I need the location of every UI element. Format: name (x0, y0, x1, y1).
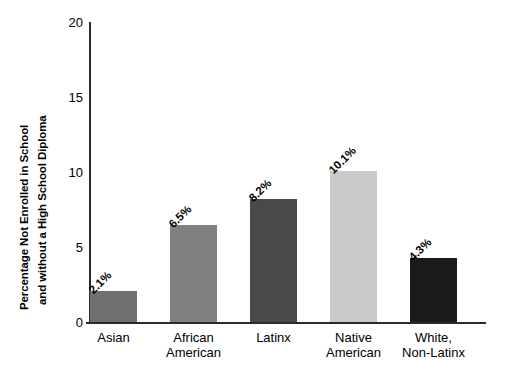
x-category-label-line: Non-Latinx (384, 345, 484, 360)
y-tick-label: 15 (49, 91, 89, 104)
bar (170, 225, 217, 323)
plot-area: 05101520 2.1%6.5%8.2%10.1%4.3% AsianAfri… (89, 22, 486, 322)
bar-chart: Percentage Not Enrolled in School and wi… (0, 0, 515, 381)
y-tick-label: 10 (49, 166, 89, 179)
bar (250, 199, 297, 322)
bar (410, 258, 457, 323)
x-category-label: White,Non-Latinx (384, 330, 484, 360)
y-axis-title-line-2: and without a High School Diploma (36, 115, 48, 305)
bar (90, 291, 137, 323)
y-axis-line (89, 22, 91, 322)
x-category-label-line: White, (384, 330, 484, 345)
y-axis-title: Percentage Not Enrolled in School and wi… (0, 0, 52, 340)
bar (330, 171, 377, 323)
y-tick-label: 20 (49, 16, 89, 29)
y-axis-title-line-1: Percentage Not Enrolled in School (18, 125, 30, 310)
x-category-label-line: American (144, 345, 244, 360)
y-tick-label: 0 (49, 316, 89, 329)
y-tick-label: 5 (49, 241, 89, 254)
x-axis-line (86, 322, 486, 324)
